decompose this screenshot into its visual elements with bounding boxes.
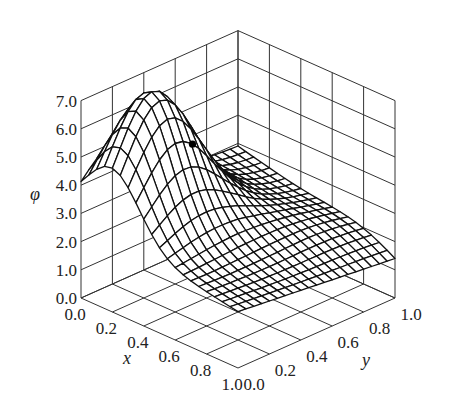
marked-point <box>189 141 196 148</box>
x-tick-label: 0.6 <box>159 347 180 366</box>
z-tick-label: 3.0 <box>56 204 77 223</box>
z-tick-label: 1.0 <box>56 261 77 280</box>
y-tick-label: 0.2 <box>275 361 296 380</box>
y-axis-label: y <box>360 350 370 370</box>
x-axis-label: x <box>122 348 131 368</box>
surface-plot: 0.01.02.03.04.05.06.07.00.00.20.40.60.81… <box>0 0 450 412</box>
x-tick-label: 0.8 <box>190 361 211 380</box>
z-tick-label: 4.0 <box>56 176 77 195</box>
y-tick-label: 0.8 <box>369 319 390 338</box>
x-tick-label: 0.2 <box>96 319 117 338</box>
z-axis-label: φ <box>30 184 40 204</box>
y-tick-label: 1.0 <box>400 305 421 324</box>
y-tick-label: 0.4 <box>306 347 328 366</box>
y-tick-label: 0.6 <box>338 333 359 352</box>
z-tick-label: 7.0 <box>56 92 77 111</box>
y-tick-label: 0.0 <box>243 375 264 394</box>
x-tick-label: 1.0 <box>221 375 242 394</box>
z-tick-label: 2.0 <box>56 233 77 252</box>
z-tick-label: 5.0 <box>56 148 77 167</box>
z-tick-label: 6.0 <box>56 120 77 139</box>
x-tick-label: 0.0 <box>64 305 85 324</box>
